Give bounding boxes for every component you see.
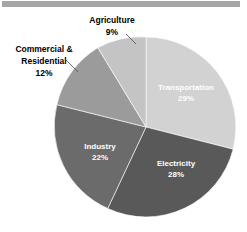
- slice-label-transportation: Transportation: [158, 83, 214, 92]
- slice-value-electricity: 28%: [168, 170, 184, 179]
- callout-value-agriculture: 9%: [106, 27, 119, 37]
- slice-label-electricity: Electricity: [157, 159, 196, 168]
- callout-value-commercial-residential: 12%: [35, 68, 52, 78]
- slice-value-industry: 22%: [92, 153, 108, 162]
- pie-chart-figure: Transportation 29% Electricity 28% Indus…: [0, 0, 247, 232]
- slice-label-industry: Industry: [84, 142, 116, 151]
- callout-label-agriculture: Agriculture: [89, 15, 135, 25]
- slice-value-transportation: 29%: [178, 94, 194, 103]
- pie-chart-svg: Transportation 29% Electricity 28% Indus…: [0, 0, 247, 232]
- callout-label-commercial-residential-line2: Residential: [21, 56, 66, 66]
- callout-label-commercial-residential-line1: Commercial &: [15, 44, 72, 54]
